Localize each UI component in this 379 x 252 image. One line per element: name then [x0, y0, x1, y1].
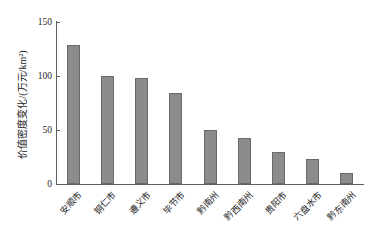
y-tick-label: 0 — [28, 179, 52, 189]
y-tick-label: 150 — [28, 17, 52, 27]
bar — [204, 130, 217, 184]
y-tick-label-wrap: 0 — [26, 179, 52, 189]
bar-series — [56, 22, 364, 184]
x-axis-line — [56, 184, 364, 185]
bar — [340, 173, 353, 184]
bar — [67, 45, 80, 184]
y-axis-title: 价值密度变化/(万元/km²) — [14, 17, 32, 192]
bar — [272, 152, 285, 184]
y-tick-label-wrap: 150 — [26, 17, 52, 27]
y-tick-mark — [56, 184, 60, 185]
y-tick-label-wrap: 100 — [26, 71, 52, 81]
y-tick-label: 100 — [28, 71, 52, 81]
bar — [101, 76, 114, 184]
bar — [135, 78, 148, 184]
bar-chart: 价值密度变化/(万元/km²) 050100150 安顺市铜仁市遵义市毕节市黔南… — [0, 0, 379, 252]
bar — [238, 138, 251, 184]
bar — [306, 159, 319, 184]
bar — [169, 93, 182, 184]
y-tick-label-wrap: 50 — [26, 125, 52, 135]
y-tick-label: 50 — [28, 125, 52, 135]
